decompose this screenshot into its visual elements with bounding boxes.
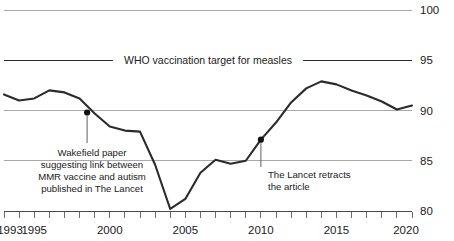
x-tick-label-2015: 2015: [324, 224, 350, 236]
y-tick-label-80: 80: [420, 205, 433, 217]
annotation-marker-wakefield-paper: [84, 109, 90, 115]
x-tick-label-2010: 2010: [248, 224, 274, 236]
x-tick-labels-group: 1993199520002005201020152020: [0, 224, 419, 236]
annotation-text-wakefield-paper-line-3: MMR vaccine and autism: [38, 171, 146, 182]
x-tick-label-2005: 2005: [173, 224, 199, 236]
y-tick-label-90: 90: [420, 105, 433, 117]
y-tick-labels-group: 80859095100: [420, 4, 439, 217]
annotation-text-lancet-retraction-line-2: the article: [268, 181, 310, 192]
x-tick-label-1995: 1995: [21, 224, 47, 236]
vaccination-coverage-chart: WHO vaccination target for measles Wakef…: [0, 0, 454, 241]
y-tick-label-85: 85: [420, 155, 433, 167]
annotation-text-wakefield-paper-line-1: Wakefield paper: [58, 147, 128, 158]
annotation-text-lancet-retraction-line-1: The Lancet retracts: [268, 169, 351, 180]
x-tick-label-1993: 1993: [0, 224, 23, 236]
chart-canvas: WHO vaccination target for measles Wakef…: [0, 0, 454, 241]
reference-line-group: WHO vaccination target for measles: [4, 54, 412, 66]
who-target-label: WHO vaccination target for measles: [124, 54, 292, 66]
annotation-text-wakefield-paper-line-2: suggesting link between: [41, 159, 143, 170]
annotation-text-wakefield-paper-line-4: published in The Lancet: [41, 183, 143, 194]
x-tick-label-2020: 2020: [393, 224, 419, 236]
y-tick-label-100: 100: [420, 4, 439, 16]
x-tick-label-2000: 2000: [97, 224, 123, 236]
annotation-marker-lancet-retraction: [258, 137, 264, 143]
x-axis-group: [4, 211, 412, 218]
y-tick-label-95: 95: [420, 54, 433, 66]
